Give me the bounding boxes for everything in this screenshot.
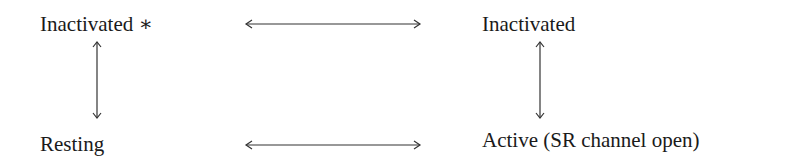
arrow-resting-to-active — [246, 141, 420, 149]
arrow-inactivated-star-to-inactivated — [246, 20, 420, 28]
arrow-inactivated-to-active — [536, 42, 544, 118]
transition-arrows — [0, 0, 795, 165]
arrow-inactivated-star-to-resting — [93, 42, 101, 118]
